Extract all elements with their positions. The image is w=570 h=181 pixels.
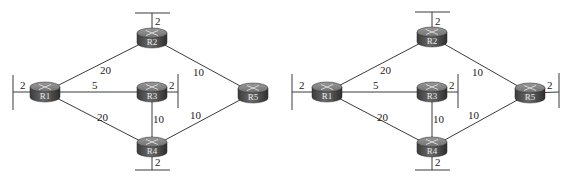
stub-cost-label: 2 bbox=[299, 79, 305, 91]
topology-left: 205201010102222R1R2R3R4R5 bbox=[13, 13, 268, 170]
stub-cost-label: 2 bbox=[155, 15, 161, 27]
router-label: R2 bbox=[427, 36, 438, 46]
router-r4: R4 bbox=[417, 137, 447, 157]
link-r1-r2 bbox=[45, 38, 152, 92]
stub-cost-label: 2 bbox=[20, 79, 26, 91]
router-label: R2 bbox=[147, 37, 158, 47]
router-label: R4 bbox=[147, 146, 158, 156]
router-r3: R3 bbox=[137, 82, 167, 102]
diagram-canvas: 205201010102222R1R2R3R4R5205201010102222… bbox=[0, 0, 570, 181]
link-cost-label: 10 bbox=[190, 109, 202, 121]
link-cost-label: 5 bbox=[373, 79, 379, 91]
stub-cost-label: 2 bbox=[547, 79, 553, 91]
router-label: R1 bbox=[40, 91, 51, 101]
router-label: R5 bbox=[525, 92, 536, 102]
stub-cost-label: 2 bbox=[435, 156, 441, 168]
link-cost-label: 20 bbox=[100, 64, 112, 76]
link-r2-r5 bbox=[432, 37, 530, 93]
router-r1: R1 bbox=[30, 82, 60, 102]
router-label: R3 bbox=[427, 91, 438, 101]
router-label: R4 bbox=[427, 146, 438, 156]
link-cost-label: 10 bbox=[472, 66, 484, 78]
router-label: R3 bbox=[147, 91, 158, 101]
link-cost-label: 20 bbox=[97, 111, 109, 123]
router-label: R5 bbox=[248, 92, 259, 102]
router-r4: R4 bbox=[137, 137, 167, 157]
stub-cost-label: 2 bbox=[169, 79, 175, 91]
router-label: R1 bbox=[322, 91, 333, 101]
network-diagram-figure: 205201010102222R1R2R3R4R5205201010102222… bbox=[0, 0, 570, 181]
link-r4-r5 bbox=[152, 93, 253, 147]
link-cost-label: 10 bbox=[153, 113, 165, 125]
link-cost-label: 10 bbox=[193, 66, 205, 78]
router-r5: R5 bbox=[238, 83, 268, 103]
router-r5: R5 bbox=[515, 83, 545, 103]
router-r2: R2 bbox=[137, 28, 167, 48]
link-r4-r5 bbox=[432, 93, 530, 147]
stub-cost-label: 2 bbox=[449, 79, 455, 91]
link-cost-label: 10 bbox=[433, 113, 445, 125]
topology-right: 2052010101022222R1R2R3R4R5 bbox=[292, 12, 559, 170]
link-cost-label: 20 bbox=[377, 111, 389, 123]
router-r3: R3 bbox=[417, 82, 447, 102]
link-cost-label: 10 bbox=[468, 109, 480, 121]
stub-cost-label: 2 bbox=[155, 156, 161, 168]
stub-cost-label: 2 bbox=[435, 15, 441, 27]
router-r2: R2 bbox=[417, 27, 447, 47]
link-cost-label: 20 bbox=[380, 64, 392, 76]
link-cost-label: 5 bbox=[92, 79, 98, 91]
router-r1: R1 bbox=[312, 82, 342, 102]
